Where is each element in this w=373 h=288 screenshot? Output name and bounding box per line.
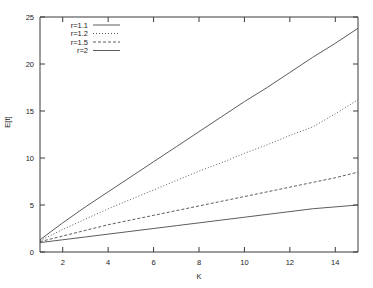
chart-svg: 0510152025 2468101214 r=1.1r=1.2r=1.5r=2… <box>0 0 373 288</box>
y-tick-label: 25 <box>26 13 34 22</box>
legend-label-r-2: r=2 <box>77 46 88 55</box>
curve-r-1-2 <box>40 100 358 241</box>
y-tick-label: 20 <box>26 60 34 69</box>
curve-r-1-1 <box>40 28 358 240</box>
x-tick-label: 12 <box>286 258 294 267</box>
chart-figure: 0510152025 2468101214 r=1.1r=1.2r=1.5r=2… <box>0 0 373 288</box>
x-tick-label: 4 <box>106 258 110 267</box>
y-tick-label: 0 <box>30 248 34 257</box>
y-axis-ticks: 0510152025 <box>26 13 358 257</box>
x-tick-label: 2 <box>61 258 65 267</box>
y-axis-title: E[t] <box>3 116 12 127</box>
curve-r-1-5 <box>40 172 358 242</box>
y-tick-label: 15 <box>26 107 34 116</box>
y-tick-label: 5 <box>30 201 34 210</box>
x-tick-label: 10 <box>240 258 248 267</box>
x-axis-ticks: 2468101214 <box>61 17 340 267</box>
y-tick-label: 10 <box>26 154 34 163</box>
x-tick-label: 6 <box>151 258 155 267</box>
curve-r-2 <box>40 205 358 243</box>
x-tick-label: 8 <box>197 258 201 267</box>
x-axis-title: K <box>196 272 201 281</box>
curve-group <box>40 28 358 242</box>
chart-legend: r=1.1r=1.2r=1.5r=2 <box>71 21 120 56</box>
x-tick-label: 14 <box>331 258 339 267</box>
